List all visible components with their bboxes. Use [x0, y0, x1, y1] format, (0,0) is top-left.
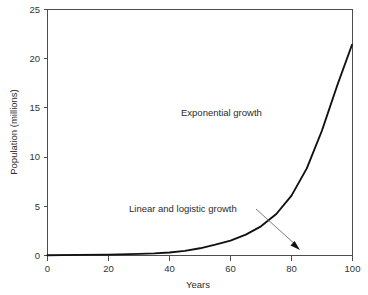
- x-tick-label-20: 20: [103, 263, 114, 274]
- population-growth-chart: 0 5 10 15 20 25 0 20 40 60 80 100 Years …: [0, 0, 368, 295]
- x-tick-label-80: 80: [286, 263, 297, 274]
- x-axis-title: Years: [186, 279, 210, 290]
- x-tick-label-100: 100: [345, 263, 361, 274]
- x-tick-label-40: 40: [164, 263, 175, 274]
- chart-figure: 0 5 10 15 20 25 0 20 40 60 80 100 Years …: [0, 0, 368, 295]
- x-tick-label-60: 60: [225, 263, 236, 274]
- y-tick-label-5: 5: [35, 201, 40, 212]
- y-tick-label-15: 15: [29, 102, 40, 113]
- y-tick-label-0: 0: [35, 250, 40, 261]
- y-tick-label-10: 10: [29, 151, 40, 162]
- x-tick-label-0: 0: [45, 263, 50, 274]
- y-tick-label-25: 25: [29, 4, 40, 15]
- y-axis-title: Population (millions): [8, 89, 19, 175]
- y-tick-label-20: 20: [29, 53, 40, 64]
- exponential-growth-label: Exponential growth: [181, 107, 262, 118]
- linear-logistic-growth-label: Linear and logistic growth: [129, 203, 237, 214]
